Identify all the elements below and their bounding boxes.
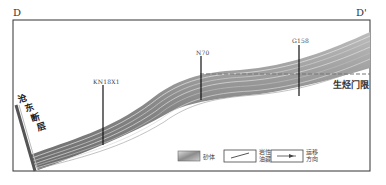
legend-reservoir-label: 岩性 油藏 (259, 148, 271, 162)
legend-migration-label: 运移 方向 (306, 148, 318, 162)
legend-migration-line1: 运移 (306, 148, 318, 155)
threshold-label: 生烃门限 (333, 78, 369, 91)
well-label-g158: G158 (292, 37, 309, 44)
legend-sand-swatch (178, 151, 200, 161)
legend-sand-label: 砂体 (203, 153, 215, 160)
well-label-kn18x1: KN18X1 (93, 78, 120, 85)
fault-char-4: 层 (36, 122, 44, 134)
legend-reservoir-line2: 油藏 (259, 155, 271, 162)
cross-section-graphic (0, 0, 386, 185)
well-label-n70: N70 (196, 49, 210, 56)
legend-migration-line2: 方向 (306, 155, 318, 162)
legend-reservoir-line1: 岩性 (259, 148, 271, 155)
